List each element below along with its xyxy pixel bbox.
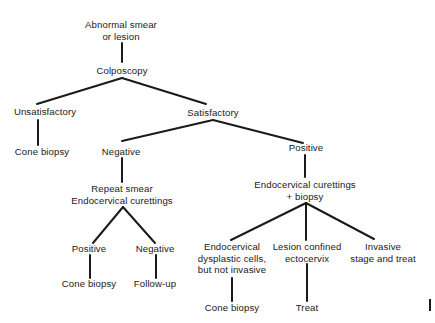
node-line: or lesion — [85, 31, 157, 43]
node-line: Cone biopsy — [62, 278, 116, 290]
node-line: Endocervical — [198, 241, 266, 253]
edge-colposcopy-unsatisfactory — [37, 78, 122, 104]
node-line: Abnormal smear — [85, 19, 157, 31]
node-repeat-positive: Positive — [72, 243, 106, 255]
node-follow-up: Follow-up — [134, 278, 177, 290]
edge-satisfactory-positive — [213, 120, 303, 143]
node-line: but not invasive — [198, 264, 266, 276]
node-endocervical-dysplastic: Endocervical dysplastic cells, but not i… — [198, 241, 266, 276]
node-invasive: Invasive stage and treat — [350, 241, 416, 264]
node-colposcopy: Colposcopy — [96, 65, 147, 77]
node-unsatisfactory-cone-biopsy: Cone biopsy — [15, 146, 69, 158]
node-lesion-confined: Lesion confined ectocervix — [273, 241, 342, 264]
node-line: Satisfactory — [187, 107, 238, 119]
node-negative: Negative — [102, 146, 141, 158]
node-satisfactory: Satisfactory — [187, 107, 238, 119]
node-line: stage and treat — [350, 253, 416, 265]
node-ecc-biopsy: Endocervical curettings + biopsy — [254, 179, 355, 202]
edge-satisfactory-negative — [122, 120, 213, 141]
node-line: ectocervix — [273, 253, 342, 265]
node-line: Treat — [296, 302, 319, 314]
node-endocervical-cone-biopsy: Cone biopsy — [205, 302, 259, 314]
node-line: Unsatisfactory — [14, 106, 76, 118]
node-line: + biopsy — [254, 191, 355, 203]
node-line: Repeat smear — [71, 183, 172, 195]
node-line: Cone biopsy — [15, 146, 69, 158]
node-line: Endocervical curettings — [71, 195, 172, 207]
node-line: Positive — [289, 142, 323, 154]
edge-ecc-invasive — [306, 203, 374, 239]
edge-repeat-positive — [93, 207, 123, 243]
node-line: Follow-up — [134, 278, 177, 290]
node-unsatisfactory: Unsatisfactory — [14, 106, 76, 118]
node-line: Negative — [136, 243, 175, 255]
node-line: Positive — [72, 243, 106, 255]
node-line: Endocervical curettings — [254, 179, 355, 191]
node-treat: Treat — [296, 302, 319, 314]
edge-ecc-endocervical — [231, 203, 306, 240]
node-repeat-negative: Negative — [136, 243, 175, 255]
node-abnormal-smear: Abnormal smear or lesion — [85, 19, 157, 42]
edge-colposcopy-satisfactory — [122, 78, 206, 104]
node-line: Invasive — [350, 241, 416, 253]
node-positive: Positive — [289, 142, 323, 154]
node-line: Cone biopsy — [205, 302, 259, 314]
node-line: dysplastic cells, — [198, 253, 266, 265]
page-edge-mark — [429, 299, 431, 311]
node-line: Negative — [102, 146, 141, 158]
edge-repeat-negative — [123, 207, 155, 243]
node-repeat-positive-cone-biopsy: Cone biopsy — [62, 278, 116, 290]
colposcopy-decision-tree: Abnormal smear or lesion Colposcopy Unsa… — [0, 0, 435, 323]
node-line: Colposcopy — [96, 65, 147, 77]
node-line: Lesion confined — [273, 241, 342, 253]
node-repeat-smear: Repeat smear Endocervical curettings — [71, 183, 172, 206]
